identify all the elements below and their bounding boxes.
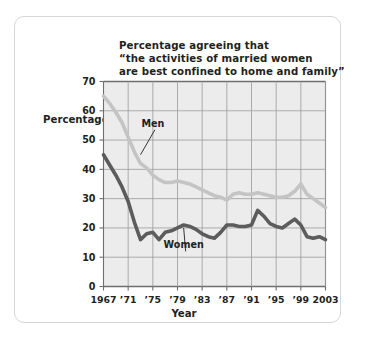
svg-text:1967: 1967	[90, 294, 116, 305]
svg-text:’75: ’75	[145, 294, 162, 305]
svg-text:40: 40	[82, 164, 96, 175]
svg-text:10: 10	[82, 252, 96, 263]
svg-text:’99: ’99	[293, 294, 310, 305]
x-tick-labels: 1967’71’75’79’83’87’91’95’992003	[90, 294, 338, 305]
svg-text:’71: ’71	[120, 294, 137, 305]
plot-background	[104, 82, 326, 287]
svg-text:’91: ’91	[243, 294, 260, 305]
callout-label-women: Women	[164, 239, 204, 250]
svg-text:60: 60	[82, 105, 96, 116]
svg-text:30: 30	[82, 193, 96, 204]
svg-text:’83: ’83	[194, 294, 211, 305]
svg-text:50: 50	[82, 134, 96, 145]
svg-text:0: 0	[89, 281, 96, 292]
svg-text:’87: ’87	[219, 294, 236, 305]
svg-text:20: 20	[82, 222, 96, 233]
svg-text:2003: 2003	[312, 294, 338, 305]
svg-text:70: 70	[82, 76, 96, 87]
callout-label-men: Men	[141, 118, 164, 129]
svg-text:’95: ’95	[268, 294, 285, 305]
y-tick-labels: 010203040506070	[82, 76, 96, 292]
y-tick-marks	[100, 82, 104, 287]
line-chart-svg: 010203040506070 1967’71’75’79’83’87’91’9…	[0, 0, 368, 340]
svg-text:’79: ’79	[169, 294, 186, 305]
